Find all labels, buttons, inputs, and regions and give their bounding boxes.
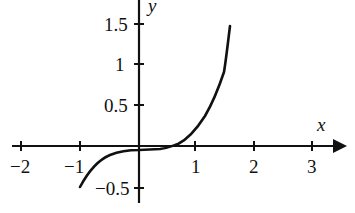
y-axis-label: y (146, 0, 157, 16)
x-tick-label: 1 (191, 156, 201, 177)
y-tick-label: 1.5 (104, 14, 128, 35)
chart-canvas: −2 −1 1 2 3 1.5 1 0.5 −0.5 x y (0, 0, 355, 213)
y-tick-label: −0.5 (95, 178, 129, 199)
x-tick-label: 2 (249, 156, 259, 177)
x-tick-label: −2 (10, 156, 30, 177)
function-curve (80, 26, 230, 187)
y-tick-label: 0.5 (104, 95, 128, 116)
x-tick-label: −1 (64, 156, 84, 177)
x-axis-arrow-icon (333, 139, 347, 153)
y-tick-label: 1 (115, 54, 125, 75)
x-tick-label: 3 (307, 156, 317, 177)
x-axis-label: x (316, 114, 326, 135)
